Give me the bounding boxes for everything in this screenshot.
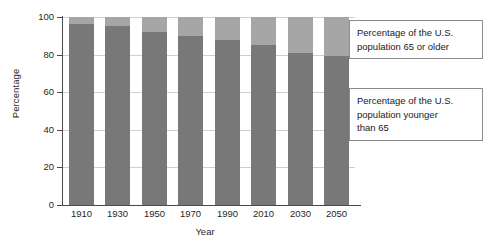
bar-segment-older-1930 xyxy=(105,17,130,26)
x-tick-label-1910: 1910 xyxy=(62,208,102,219)
x-tick-label-1950: 1950 xyxy=(135,208,175,219)
x-tick-label-1990: 1990 xyxy=(208,208,248,219)
callout-younger-line-3: than 65 xyxy=(357,121,475,135)
y-tick-label-60: 60 xyxy=(22,87,54,97)
bar-segment-younger-1970 xyxy=(178,36,203,205)
bar-segment-older-1990 xyxy=(215,17,240,40)
x-tick-label-2010: 2010 xyxy=(244,208,284,219)
x-axis-title: Year xyxy=(55,226,355,237)
x-tick-label-2030: 2030 xyxy=(281,208,321,219)
bar-segment-younger-1910 xyxy=(69,24,94,205)
chart-canvas: Percentage 020406080100 1910193019501970… xyxy=(0,0,486,245)
bar-segment-younger-2030 xyxy=(288,53,313,205)
y-axis-title: Percentage xyxy=(10,49,21,139)
callout-younger-line-1: Percentage of the U.S. xyxy=(357,94,475,108)
bar-segment-younger-2010 xyxy=(251,45,276,205)
y-tick-label-40: 40 xyxy=(22,125,54,135)
bar-segment-younger-2050 xyxy=(324,56,349,205)
bar-segment-older-2030 xyxy=(288,17,313,53)
bar-1990 xyxy=(215,17,240,205)
bar-2050 xyxy=(324,17,349,205)
bar-2030 xyxy=(288,17,313,205)
callout-older-line-2: population 65 or older xyxy=(357,40,475,54)
x-tick-label-2050: 2050 xyxy=(317,208,357,219)
callout-younger: Percentage of the U.S. population younge… xyxy=(349,88,483,141)
y-tick-label-0: 0 xyxy=(22,200,54,210)
bar-1970 xyxy=(178,17,203,205)
bar-2010 xyxy=(251,17,276,205)
bar-segment-older-1910 xyxy=(69,17,94,24)
bar-segment-younger-1990 xyxy=(215,40,240,205)
y-tick-0 xyxy=(57,205,63,206)
bar-segment-older-1950 xyxy=(142,17,167,32)
bar-segment-older-1970 xyxy=(178,17,203,36)
plot-area xyxy=(63,17,355,205)
bar-1950 xyxy=(142,17,167,205)
x-axis-line xyxy=(62,205,361,206)
bar-segment-older-2010 xyxy=(251,17,276,45)
bar-1910 xyxy=(69,17,94,205)
callout-younger-line-2: population younger xyxy=(357,108,475,122)
bar-segment-younger-1930 xyxy=(105,26,130,205)
x-tick-label-1930: 1930 xyxy=(98,208,138,219)
callout-older-line-1: Percentage of the U.S. xyxy=(357,26,475,40)
bar-segment-younger-1950 xyxy=(142,32,167,205)
bar-1930 xyxy=(105,17,130,205)
callout-older: Percentage of the U.S. population 65 or … xyxy=(349,20,483,59)
y-tick-label-20: 20 xyxy=(22,162,54,172)
y-tick-label-100: 100 xyxy=(22,12,54,22)
y-tick-label-80: 80 xyxy=(22,50,54,60)
x-tick-label-1970: 1970 xyxy=(171,208,211,219)
bar-segment-older-2050 xyxy=(324,17,349,56)
